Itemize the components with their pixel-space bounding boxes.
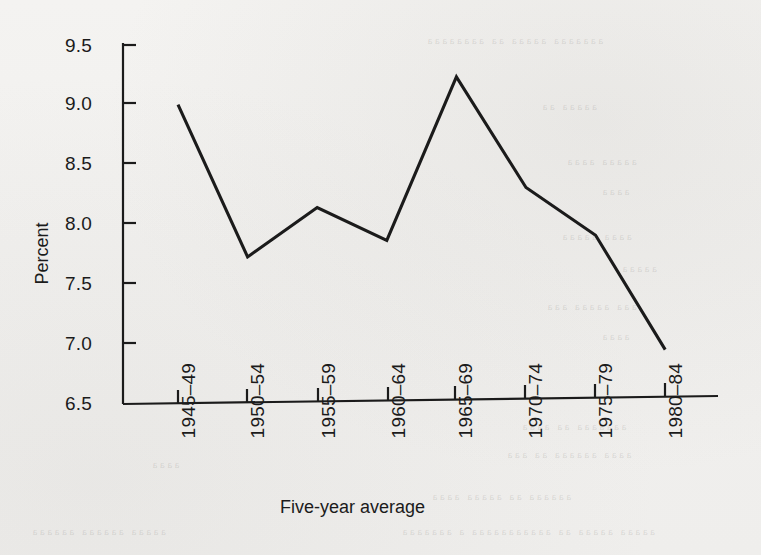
x-tick-label: 1960–64: [388, 363, 410, 463]
x-tick-label: 1970–74: [525, 363, 547, 463]
x-tick-label: 1980–84: [665, 363, 687, 463]
x-tick-label: 1950–54: [247, 363, 269, 463]
x-axis-tick-labels: 1945–49 1950–54 1955–59 1960–64 1965–69 …: [0, 0, 761, 555]
x-tick-label: 1945–49: [178, 363, 200, 463]
line-chart-figure: aaaaaaa aaaaa aa aaaaaaaa aaaaa aa aaaaa…: [0, 0, 761, 555]
x-tick-label: 1965–69: [455, 363, 477, 463]
x-axis-title: Five-year average: [280, 497, 425, 518]
x-tick-label: 1955–59: [318, 363, 340, 463]
x-tick-label: 1975–79: [595, 363, 617, 463]
